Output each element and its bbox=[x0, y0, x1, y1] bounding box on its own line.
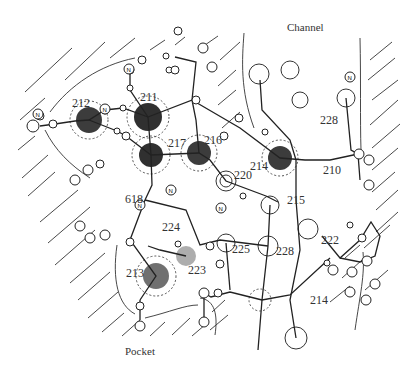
region-label-channel: Channel bbox=[287, 21, 324, 33]
residue-label-228: 228 bbox=[320, 114, 338, 126]
region-label-pocket: Pocket bbox=[125, 345, 155, 357]
residue-label-214: 214 bbox=[250, 160, 268, 172]
svg-text:N: N bbox=[219, 206, 223, 212]
svg-text:N: N bbox=[348, 75, 352, 81]
svg-text:N: N bbox=[169, 188, 173, 194]
residue-label-618: 618 bbox=[125, 193, 143, 205]
residue-label-225: 225 bbox=[232, 243, 250, 255]
svg-text:N: N bbox=[36, 112, 40, 118]
residue-label-223: 223 bbox=[188, 264, 206, 276]
atoms bbox=[27, 27, 380, 331]
residue-label-228-lower: 228 bbox=[276, 245, 294, 257]
bonds bbox=[40, 57, 380, 350]
residue-label-213: 213 bbox=[126, 267, 144, 279]
residue-label-211: 211 bbox=[140, 91, 158, 103]
residue-label-224: 224 bbox=[162, 221, 180, 233]
diagram-artwork: N N N N N N N bbox=[0, 0, 419, 381]
residue-label-216: 216 bbox=[204, 134, 222, 146]
residue-label-214-lower: 214 bbox=[310, 294, 328, 306]
residue-label-222: 222 bbox=[321, 234, 339, 246]
residue-label-210: 210 bbox=[323, 164, 341, 176]
svg-text:N: N bbox=[103, 107, 107, 113]
residue-label-215: 215 bbox=[287, 194, 305, 206]
svg-text:N: N bbox=[127, 67, 131, 73]
molecular-density-diagram: N N N N N N N Channel Pocket 212 211 217… bbox=[0, 0, 419, 381]
residue-label-212: 212 bbox=[72, 97, 90, 109]
residue-label-217: 217 bbox=[168, 137, 186, 149]
